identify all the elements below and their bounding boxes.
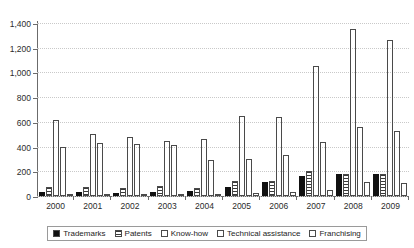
legend-label-know-how: Know-how [171,230,208,238]
bar-franchising-2006 [290,192,296,196]
bar-technical-assistance-2004 [208,160,214,196]
bar-technical-assistance-2002 [134,144,140,196]
x-tick-label-2008: 2008 [335,199,372,213]
bar-trademarks-2001 [76,192,82,196]
bar-franchising-2003 [178,194,184,196]
bar-trademarks-2009 [373,174,379,196]
legend-item-technical-assistance[interactable]: Technical assistance [217,230,300,238]
bar-patents-2009 [380,174,386,196]
x-tick-label-2006: 2006 [260,199,297,213]
bar-trademarks-2005 [225,187,231,196]
legend-swatch-know-how-icon [161,230,168,237]
legend-swatch-franchising-icon [309,230,316,237]
bar-franchising-2008 [364,182,370,196]
bar-patents-2005 [232,181,238,196]
bar-franchising-2002 [141,194,147,196]
legend-swatch-patents-icon [115,230,122,237]
bar-trademarks-2004 [187,191,193,196]
bar-know-how-2004 [201,139,207,196]
bar-patents-2007 [306,171,312,196]
bar-group-2000 [37,23,74,196]
bar-group-2002 [111,23,148,196]
bar-know-how-2002 [127,137,133,196]
bar-patents-2006 [269,181,275,196]
chart-legend: TrademarksPatentsKnow-howTechnical assis… [47,226,367,241]
bar-group-2005 [223,23,260,196]
bar-group-2003 [149,23,186,196]
x-tick-label-2002: 2002 [111,199,148,213]
bar-group-2009 [372,23,409,196]
bar-chart: 02004006008001,0001,2001,400 20002001200… [0,0,414,248]
legend-item-know-how[interactable]: Know-how [161,230,208,238]
bar-know-how-2007 [313,66,319,196]
bar-technical-assistance-2007 [320,142,326,196]
bar-trademarks-2003 [150,192,156,196]
legend-label-trademarks: Trademarks [63,230,105,238]
x-tick-label-2000: 2000 [37,199,74,213]
bar-technical-assistance-2001 [97,143,103,196]
bar-group-2004 [186,23,223,196]
y-tick-label-1400: 1,400 [10,20,31,29]
bar-trademarks-2007 [299,176,305,196]
legend-item-patents[interactable]: Patents [115,230,152,238]
legend-swatch-trademarks-icon [53,230,60,237]
bar-know-how-2008 [350,29,356,196]
bar-know-how-2005 [239,116,245,196]
bar-know-how-2006 [276,117,282,196]
bar-patents-2004 [194,188,200,196]
bar-know-how-2009 [387,40,393,196]
bar-patents-2000 [46,187,52,196]
y-tick-label-0: 0 [26,193,31,202]
legend-label-technical-assistance: Technical assistance [227,230,300,238]
bar-technical-assistance-2006 [283,155,289,196]
legend-item-trademarks[interactable]: Trademarks [53,230,105,238]
bar-trademarks-2000 [39,192,45,196]
bar-groups [37,23,409,196]
bar-know-how-2000 [53,120,59,196]
bar-group-2001 [74,23,111,196]
x-tick-label-2009: 2009 [372,199,409,213]
y-tick-label-600: 600 [17,119,31,128]
x-tick-label-2004: 2004 [186,199,223,213]
y-tick-label-400: 400 [17,143,31,152]
bar-group-2007 [297,23,334,196]
bar-know-how-2001 [90,134,96,196]
legend-label-franchising: Franchising [319,230,360,238]
x-tick-label-2001: 2001 [74,199,111,213]
y-tick-mark-0 [33,197,37,198]
bar-technical-assistance-2008 [357,127,363,196]
y-tick-label-1200: 1,200 [10,44,31,53]
x-axis-tick-labels: 2000200120022003200420052006200720082009 [37,199,409,213]
y-tick-label-200: 200 [17,168,31,177]
bar-franchising-2004 [215,194,221,196]
bar-technical-assistance-2005 [246,159,252,196]
bar-technical-assistance-2009 [394,131,400,196]
x-tick-label-2007: 2007 [297,199,334,213]
bar-group-2008 [335,23,372,196]
legend-label-patents: Patents [125,230,152,238]
bar-franchising-2005 [253,193,259,196]
bar-patents-2002 [120,188,126,196]
x-tick-label-2005: 2005 [223,199,260,213]
bar-technical-assistance-2000 [60,147,66,196]
bar-trademarks-2008 [336,174,342,196]
bar-franchising-2009 [401,183,407,196]
legend-item-franchising[interactable]: Franchising [309,230,360,238]
bar-trademarks-2006 [262,182,268,196]
legend-swatch-technical-assistance-icon [217,230,224,237]
y-tick-label-800: 800 [17,94,31,103]
bar-know-how-2003 [164,141,170,196]
bar-patents-2001 [83,187,89,196]
bar-franchising-2007 [327,190,333,196]
y-tick-label-1000: 1,000 [10,69,31,78]
bar-group-2006 [260,23,297,196]
bar-franchising-2001 [104,194,110,196]
bar-patents-2003 [157,186,163,196]
bar-patents-2008 [343,174,349,196]
plot-area: 02004006008001,0001,2001,400 [37,23,409,196]
bar-technical-assistance-2003 [171,145,177,196]
bar-franchising-2000 [67,194,73,196]
x-tick-label-2003: 2003 [149,199,186,213]
bar-trademarks-2002 [113,193,119,196]
